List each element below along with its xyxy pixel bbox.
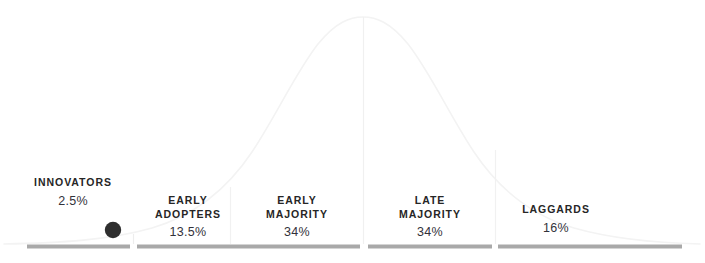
segment-name-line: MAJORITY [399,208,461,222]
segment-label-innovators: INNOVATORS 2.5% [34,176,112,209]
segment-label-early-adopters: EARLY ADOPTERS 13.5% [155,194,221,240]
segment-name-innovators: INNOVATORS [34,176,112,190]
diffusion-of-innovation-chart: INNOVATORS 2.5% EARLY ADOPTERS 13.5% EAR… [0,0,705,263]
segment-name-late-majority: LATE MAJORITY [399,194,461,221]
segment-label-laggards: LAGGARDS 16% [522,203,590,236]
segment-value-late-majority: 34% [399,224,461,240]
segment-name-line: EARLY [266,194,328,208]
segment-value-early-adopters: 13.5% [155,224,221,240]
segment-value-early-majority: 34% [266,224,328,240]
segment-name-laggards: LAGGARDS [522,203,590,217]
segment-name-early-adopters: EARLY ADOPTERS [155,194,221,221]
segment-value-laggards: 16% [522,220,590,236]
segment-label-late-majority: LATE MAJORITY 34% [399,194,461,240]
segment-name-line: LATE [399,194,461,208]
segment-value-innovators: 2.5% [34,193,112,209]
innovators-data-point-marker [105,222,121,238]
segment-name-line: LAGGARDS [522,203,590,217]
bell-curve-graphic [0,0,705,263]
segment-label-early-majority: EARLY MAJORITY 34% [266,194,328,240]
segment-name-early-majority: EARLY MAJORITY [266,194,328,221]
segment-name-line: ADOPTERS [155,208,221,222]
bell-curve-path [4,17,700,244]
segment-name-line: EARLY [155,194,221,208]
segment-name-line: INNOVATORS [34,176,112,190]
segment-name-line: MAJORITY [266,208,328,222]
